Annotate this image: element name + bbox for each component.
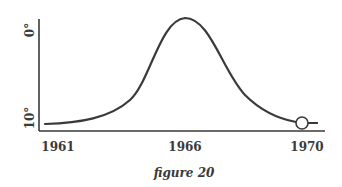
circle-marker (296, 117, 308, 129)
figure-caption: figure 20 (153, 166, 215, 180)
y-tick-10: 10° (23, 107, 37, 130)
y-tick-0: 0° (23, 23, 37, 37)
x-tick-1970: 1970 (290, 140, 323, 154)
chart: 0° 10° 1961 1966 1970 figure 20 (0, 0, 342, 187)
x-tick-1966: 1966 (168, 140, 201, 154)
data-curve (45, 18, 296, 124)
x-tick-1961: 1961 (41, 140, 74, 154)
